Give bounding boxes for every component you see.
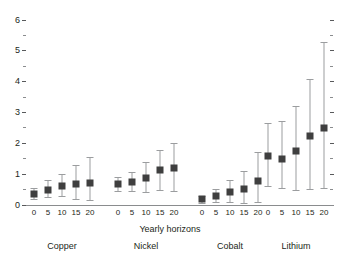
error-bar-cap-lower xyxy=(157,190,164,191)
error-bar-cap-lower xyxy=(31,199,38,200)
error-bar-cap-lower xyxy=(307,189,314,190)
y-axis-tick-label: 1 xyxy=(15,170,20,179)
error-bar-cap-upper xyxy=(115,177,122,178)
error-bar-cap-upper xyxy=(157,150,164,151)
error-bar-cap-lower xyxy=(129,191,136,192)
error-bar-cap-upper xyxy=(213,189,220,190)
error-bar-cap-lower xyxy=(143,192,150,193)
error-bar-cap-upper xyxy=(87,157,94,158)
error-bar-cap-upper xyxy=(129,172,136,173)
group-label-cobalt: Cobalt xyxy=(217,241,243,251)
error-bar-line xyxy=(324,42,325,188)
x-tick-label: 0 xyxy=(200,208,204,217)
y-axis-tick-label: 2 xyxy=(15,139,20,148)
x-tick-label: 20 xyxy=(320,208,329,217)
error-bar-cap-upper xyxy=(241,171,248,172)
error-bar-cap-lower xyxy=(213,202,220,203)
point-marker xyxy=(115,181,122,188)
x-tick-label: 15 xyxy=(306,208,315,217)
x-tick-label: 15 xyxy=(72,208,81,217)
error-bar-cap-lower xyxy=(115,191,122,192)
error-bar-cap-upper xyxy=(265,123,272,124)
x-tick-label: 5 xyxy=(280,208,284,217)
error-bar-cap-lower xyxy=(293,190,300,191)
x-axis-line xyxy=(26,205,334,206)
x-tick-label: 15 xyxy=(156,208,165,217)
error-bar-cap-upper xyxy=(45,180,52,181)
forest-plot-chart: 0123456 05101520051015200510152005101520… xyxy=(0,0,340,270)
point-marker xyxy=(279,155,286,162)
error-bar-cap-upper xyxy=(321,42,328,43)
x-tick-label: 10 xyxy=(226,208,235,217)
point-marker xyxy=(73,181,80,188)
y-axis-tick-label: 3 xyxy=(15,108,20,117)
point-marker xyxy=(213,193,220,200)
error-bar-cap-upper xyxy=(143,162,150,163)
error-bar-cap-upper xyxy=(279,121,286,122)
point-marker xyxy=(59,182,66,189)
x-tick-label: 20 xyxy=(254,208,263,217)
point-marker xyxy=(265,152,272,159)
point-marker xyxy=(199,196,206,203)
error-bar-cap-lower xyxy=(279,188,286,189)
x-tick-label: 10 xyxy=(292,208,301,217)
x-tick-label: 0 xyxy=(266,208,270,217)
point-marker xyxy=(307,132,314,139)
y-axis-tick-label: 0 xyxy=(15,201,20,210)
error-bar-cap-lower xyxy=(87,200,94,201)
error-bar-cap-upper xyxy=(171,143,178,144)
point-marker xyxy=(31,191,38,198)
point-marker xyxy=(293,148,300,155)
x-tick-label: 15 xyxy=(240,208,249,217)
x-tick-label: 0 xyxy=(116,208,120,217)
plot-area xyxy=(26,14,334,205)
point-marker xyxy=(45,186,52,193)
point-marker xyxy=(255,177,262,184)
x-tick-label: 20 xyxy=(170,208,179,217)
error-bar-cap-lower xyxy=(265,186,272,187)
error-bar-cap-lower xyxy=(321,188,328,189)
point-marker xyxy=(129,178,136,185)
x-tick-label: 10 xyxy=(58,208,67,217)
error-bar-cap-lower xyxy=(241,203,248,204)
x-tick-label: 20 xyxy=(86,208,95,217)
x-tick-label: 5 xyxy=(214,208,218,217)
error-bar-cap-lower xyxy=(255,202,262,203)
y-axis-tick-label: 5 xyxy=(15,46,20,55)
error-bar-cap-upper xyxy=(31,188,38,189)
error-bar-cap-lower xyxy=(171,191,178,192)
point-marker xyxy=(143,174,150,181)
point-marker xyxy=(171,165,178,172)
error-bar-cap-upper xyxy=(227,180,234,181)
x-tick-label: 5 xyxy=(46,208,50,217)
x-axis-title: Yearly horizons xyxy=(0,224,340,234)
x-tick-label: 0 xyxy=(32,208,36,217)
error-bar-cap-lower xyxy=(59,196,66,197)
error-bar-cap-upper xyxy=(255,152,262,153)
error-bar-cap-lower xyxy=(45,197,52,198)
y-axis: 0123456 xyxy=(0,0,26,205)
point-marker xyxy=(87,179,94,186)
group-label-nickel: Nickel xyxy=(134,241,159,251)
x-tick-label: 5 xyxy=(130,208,134,217)
y-axis-tick-label: 4 xyxy=(15,77,20,86)
point-marker xyxy=(227,189,234,196)
y-axis-tick-label: 6 xyxy=(15,16,20,25)
error-bar-cap-upper xyxy=(73,165,80,166)
point-marker xyxy=(321,124,328,131)
point-marker xyxy=(241,185,248,192)
error-bar-cap-upper xyxy=(59,174,66,175)
error-bar-cap-upper xyxy=(307,79,314,80)
error-bar-cap-upper xyxy=(293,106,300,107)
group-label-copper: Copper xyxy=(47,241,77,251)
error-bar-cap-lower xyxy=(227,202,234,203)
group-label-lithium: Lithium xyxy=(281,241,310,251)
error-bar-cap-lower xyxy=(73,199,80,200)
point-marker xyxy=(157,167,164,174)
x-tick-label: 10 xyxy=(142,208,151,217)
